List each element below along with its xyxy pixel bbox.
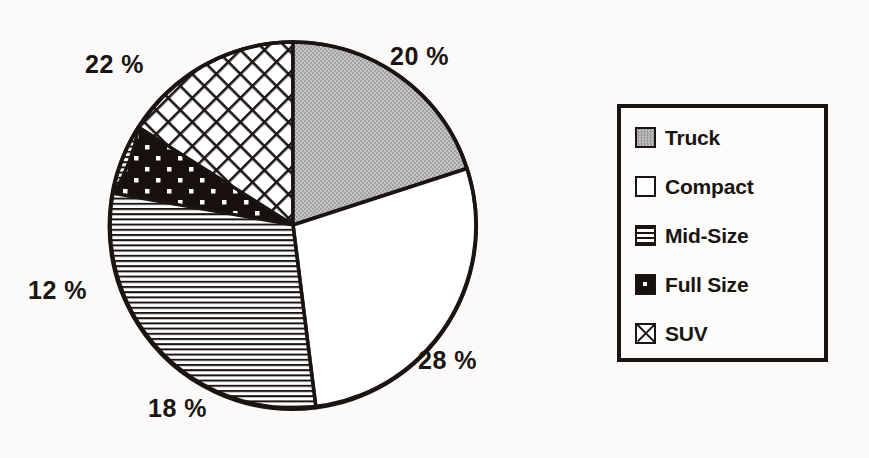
pie-label-midsize: 18 % [148, 396, 207, 421]
legend-item-label: Full Size [665, 274, 748, 295]
pie-label-fullsize: 12 % [28, 278, 87, 303]
pie-label-suv: 22 % [85, 52, 144, 77]
pie-label-truck: 20 % [390, 44, 449, 69]
legend-item-mid-size[interactable]: Mid-Size [635, 220, 816, 250]
pie-label-compact: 28 % [418, 348, 477, 373]
legend-list: Truck Compact Mid-Size Full Size SUV [635, 122, 816, 348]
pie-chart-plot-area: 20 % 28 % 18 % 12 % 22 % [0, 0, 580, 458]
legend-item-label: Mid-Size [665, 225, 749, 246]
legend: Truck Compact Mid-Size Full Size SUV [617, 104, 828, 362]
legend-item-label: Truck [665, 127, 720, 148]
legend-item-suv[interactable]: SUV [635, 318, 816, 348]
legend-item-label: SUV [665, 323, 708, 344]
horizontal-lines-swatch-icon [635, 225, 656, 246]
legend-item-label: Compact [665, 176, 753, 197]
black-dotted-swatch-icon [635, 274, 656, 295]
legend-item-compact[interactable]: Compact [635, 171, 816, 201]
gray-swatch-icon [635, 127, 656, 148]
legend-item-full-size[interactable]: Full Size [635, 269, 816, 299]
legend-item-truck[interactable]: Truck [635, 122, 816, 152]
pie-chart-figure: 20 % 28 % 18 % 12 % 22 % Truck Compact M… [0, 0, 869, 458]
crosshatch-swatch-icon [635, 323, 656, 344]
white-swatch-icon [635, 176, 656, 197]
